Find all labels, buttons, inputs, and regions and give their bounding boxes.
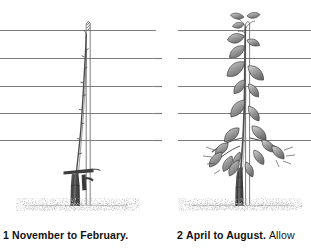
pruned-arm bbox=[64, 169, 101, 175]
leaf-icon bbox=[231, 100, 245, 117]
leaf-icon bbox=[209, 152, 222, 167]
caption-panel-2: 2 April to August. Allow bbox=[177, 228, 295, 242]
leaf-icon bbox=[254, 150, 264, 165]
replacement-cane bbox=[77, 30, 89, 172]
caption-row: 1 November to February. 2 April to Augus… bbox=[0, 228, 311, 250]
leaf-icon bbox=[233, 22, 245, 28]
leaf-icon bbox=[228, 34, 245, 44]
caption-panel-1: 1 November to February. bbox=[3, 228, 128, 242]
pruning-illustration bbox=[0, 0, 311, 225]
leaf-cluster-upper bbox=[228, 34, 260, 58]
leaf-icon bbox=[248, 66, 264, 80]
leaf-icon bbox=[230, 46, 245, 58]
lateral-shoot-right bbox=[250, 126, 295, 167]
caption-bold-text: April to August. bbox=[186, 229, 266, 241]
leaf-icon bbox=[231, 13, 245, 19]
leaf-icon bbox=[247, 39, 260, 46]
leaf-icon bbox=[245, 162, 253, 177]
leaf-icon bbox=[247, 12, 260, 18]
leaf-icon bbox=[227, 62, 245, 77]
leaf-icon bbox=[234, 80, 245, 94]
support-wires-gutter bbox=[155, 59, 162, 141]
support-wires-left bbox=[0, 31, 156, 141]
caption-bold-text: November to February. bbox=[12, 229, 128, 241]
soil-band-icon bbox=[16, 198, 140, 211]
tied-spur bbox=[82, 174, 94, 190]
panel-1-group bbox=[0, 22, 156, 212]
caption-regular-text: Allow bbox=[269, 229, 295, 241]
leaf-icon bbox=[272, 146, 284, 159]
panel-2-group bbox=[155, 12, 311, 211]
leaf-icon bbox=[252, 126, 266, 140]
figure-root: 1 November to February. 2 April to Augus… bbox=[0, 0, 311, 250]
soil-band-icon bbox=[178, 198, 302, 211]
